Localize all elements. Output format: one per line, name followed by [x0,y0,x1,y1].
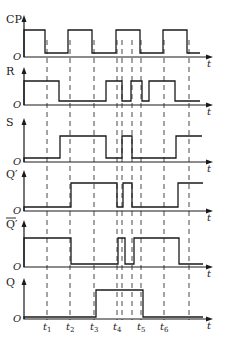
y-axis-arrow-icon [22,220,27,227]
waveform-CP [24,30,200,57]
axis-S [24,124,207,162]
time-marker-label-t1: t1 [43,321,52,334]
origin-label: O [13,51,21,62]
time-marker-label-t3: t3 [90,321,99,334]
y-axis-arrow-icon [22,278,27,285]
signal-label-CP: CP [6,13,22,26]
origin-label: O [13,313,21,324]
signal-label-Qp: Q′ [6,168,18,181]
waveform-S [24,136,202,162]
signal-label-S: S [6,116,14,129]
time-marker-dashed-lines [47,40,189,320]
axis-Qp [24,176,207,211]
time-axis-label: t [207,106,212,117]
time-marker-label-t6: t6 [160,321,169,334]
waveform-Qp [24,183,203,211]
origin-label: O [13,156,21,167]
time-axis-label: t [207,268,212,279]
time-axis-label: t [207,320,212,331]
timing-diagram: CPOtROtSOtQ′OtQ′OtQOt t1t2t3t4t5t6 [0,0,227,345]
signal-label-Q: Q [6,276,15,289]
time-axis-label: t [207,58,212,69]
y-axis-arrow-icon [22,170,27,177]
time-marker-labels: t1t2t3t4t5t6 [43,321,169,334]
y-axis-arrow-icon [22,67,27,74]
y-axis-arrow-icon [22,118,27,125]
y-axis-arrow-icon [22,15,27,22]
time-marker-label-t4: t4 [113,321,122,334]
time-marker-label-t5: t5 [137,321,146,334]
axis-Q [24,284,207,319]
axis-R [24,73,207,105]
waveform-R [24,81,200,105]
origin-label: O [13,99,21,110]
signal-label-R: R [6,65,15,78]
waveform-Q [24,290,203,319]
time-axis-label: t [207,212,212,223]
time-marker-label-t2: t2 [66,321,75,334]
signal-label-Qpbar: Q′ [6,218,18,231]
signal-waveforms [24,30,203,319]
origin-label: O [13,261,21,272]
time-axis-label: t [207,163,212,174]
signal-labels: CPOtROtSOtQ′OtQ′OtQOt [6,13,212,331]
origin-label: O [13,205,21,216]
waveform-Qpbar [24,238,203,267]
